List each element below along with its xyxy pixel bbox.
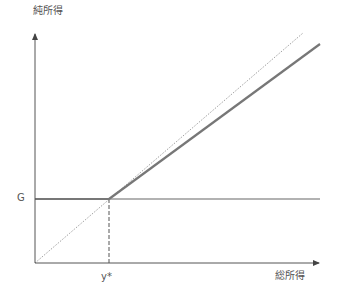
net-income-line-slope <box>109 44 320 199</box>
x-axis-label: 総所得 <box>275 271 305 281</box>
threshold-label: y* <box>101 272 112 282</box>
income-diagram <box>0 0 353 299</box>
45-degree-line <box>35 33 303 263</box>
y-axis-label: 純所得 <box>33 6 63 16</box>
guarantee-label: G <box>17 193 25 203</box>
